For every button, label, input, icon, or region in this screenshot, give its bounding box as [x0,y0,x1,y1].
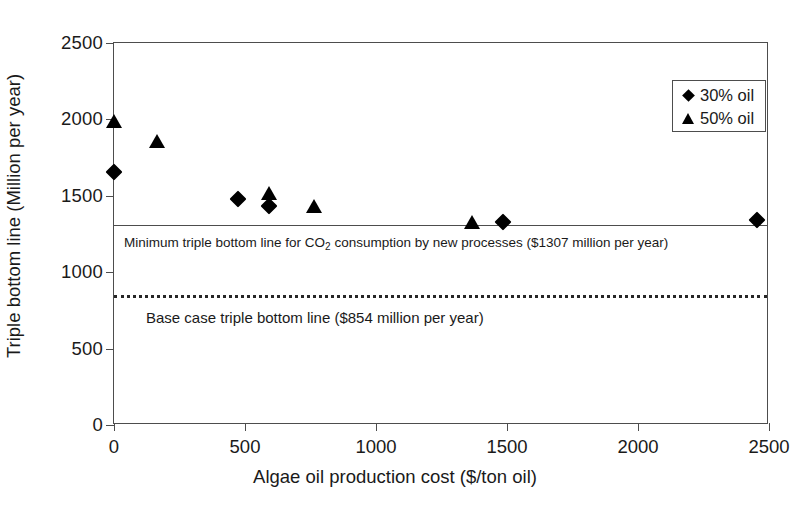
x-tick [638,423,639,431]
minimum-triple-bottom-line-line [114,225,767,226]
triangle-icon [680,113,696,124]
y-tick [106,196,114,197]
x-axis-title: Algae oil production cost ($/ton oil) [0,466,790,488]
plot-area: 05001000150020002500 0500100015002000250… [113,42,768,424]
data-point-triangle [261,185,277,199]
data-point-diamond [261,198,278,215]
data-point-triangle [106,114,122,128]
y-axis-title: Triple bottom line (Million per year) [3,0,25,436]
data-point-diamond [106,164,123,181]
x-tick [769,423,770,431]
data-point-diamond [229,191,246,208]
legend-item-50-oil: 50% oil [680,107,765,130]
x-tick-label: 2000 [617,436,658,458]
base-case-triple-bottom-line-label: Base case triple bottom line ($854 milli… [146,309,484,326]
x-tick-label: 2500 [748,436,789,458]
base-case-triple-bottom-line-line [114,295,767,298]
legend-item-30-oil: 30% oil [680,84,765,107]
y-tick-label: 1500 [61,184,103,206]
data-point-triangle [306,199,322,213]
x-tick-label: 1000 [355,436,396,458]
legend-label-30-oil: 30% oil [700,86,754,105]
x-tick [245,423,246,431]
diamond-icon [680,91,696,100]
x-tick-label: 0 [109,436,119,458]
y-tick-label: 0 [93,414,104,436]
y-tick-label: 2000 [61,108,103,130]
x-tick [376,423,377,431]
minimum-triple-bottom-line-label: Minimum triple bottom line for CO2 consu… [124,235,668,250]
x-tick [114,423,115,431]
y-tick [106,425,114,426]
data-point-diamond [494,213,511,230]
y-tick-label: 1000 [61,261,103,283]
y-tick [106,349,114,350]
chart-figure: Triple bottom line (Million per year) Al… [0,0,790,508]
chart-legend: 30% oil 50% oil [672,80,766,132]
data-point-triangle [464,215,480,229]
legend-label-50-oil: 50% oil [700,109,754,128]
y-tick [106,272,114,273]
data-point-triangle [149,134,165,148]
x-tick-label: 1500 [486,436,527,458]
y-tick [106,43,114,44]
x-tick-label: 500 [230,436,261,458]
x-tick [507,423,508,431]
y-tick-label: 500 [72,337,103,359]
y-tick-label: 2500 [61,32,103,54]
